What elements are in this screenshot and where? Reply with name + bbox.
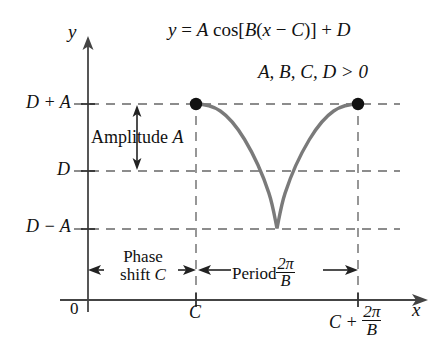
- cosine-curve: [196, 104, 358, 229]
- c-plus-prefix: C +: [329, 312, 358, 332]
- y-tick-label-d-minus-a: D − A: [26, 217, 71, 236]
- x-tick-label-c: C: [189, 303, 201, 322]
- amplitude-annotation: Amplitude A: [91, 128, 184, 147]
- max-point-right: [352, 98, 364, 110]
- x-axis-label: x: [412, 300, 420, 320]
- period-word: Period: [232, 264, 276, 283]
- origin-label: 0: [70, 300, 79, 318]
- x-tick-label-c-plus-period: C + 2π B: [329, 303, 381, 339]
- y-tick-label-d-plus-a: D + A: [26, 93, 71, 112]
- two-pi-over-b-fraction: 2π B: [362, 303, 381, 339]
- equation-label: y = A cos[B(x − C)] + D: [168, 20, 351, 40]
- period-fraction: 2π B: [276, 256, 294, 290]
- max-point-left: [190, 98, 202, 110]
- period-denominator: B: [276, 272, 294, 289]
- fraction-denominator: B: [362, 320, 381, 338]
- cosine-graph-figure: y = A cos[B(x − C)] + D A, B, C, D > 0 y…: [0, 0, 438, 360]
- period-annotation: Period 2π B: [232, 256, 295, 290]
- y-tick-label-d: D: [57, 160, 70, 179]
- condition-label: A, B, C, D > 0: [258, 62, 368, 82]
- period-numerator: 2π: [276, 256, 294, 272]
- fraction-numerator: 2π: [362, 303, 381, 320]
- phase-shift-line1: Phase: [123, 247, 163, 266]
- phase-shift-annotation: Phase shift C: [106, 248, 180, 284]
- horizontal-reference-lines: [74, 104, 400, 229]
- phase-shift-line2: shift C: [120, 265, 166, 284]
- y-axis-label: y: [68, 22, 76, 42]
